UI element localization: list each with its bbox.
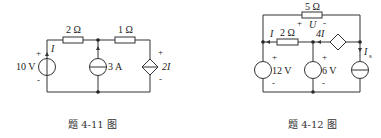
current-arrow-icon	[96, 46, 100, 50]
current-source-label: I	[363, 46, 368, 57]
plus-sign: +	[322, 52, 327, 62]
resistor-2ohm	[277, 39, 298, 45]
circuit-figures: 2 Ω 1 Ω + - 10 V I 3 A + - 2I 题 4-11 图	[0, 0, 381, 138]
node-dot	[96, 90, 100, 94]
minus-sign: -	[322, 78, 325, 88]
current-label: I	[50, 43, 55, 54]
plus-sign: +	[36, 48, 41, 58]
minus-sign: -	[323, 18, 326, 28]
minus-sign: -	[272, 78, 275, 88]
current-label: I	[269, 28, 274, 39]
node-dot	[96, 38, 100, 42]
figure-4-11: 2 Ω 1 Ω + - 10 V I 3 A + - 2I 题 4-11 图	[16, 24, 171, 130]
figure-4-12: 5 Ω + U - 2 Ω I 4I + - 12 V +	[255, 1, 373, 130]
voltage-source-12v-label: 12 V	[272, 65, 292, 76]
current-arrow-icon	[45, 52, 49, 56]
resistor-1ohm-label: 1 Ω	[118, 24, 133, 35]
dependent-source-label: 4I	[316, 28, 325, 39]
plus-sign: +	[272, 52, 277, 62]
wire	[135, 40, 150, 59]
resistor-2ohm-label: 2 Ω	[280, 27, 295, 38]
voltage-source-6v	[305, 62, 322, 79]
resistor-1ohm	[115, 37, 135, 43]
minus-sign: -	[37, 75, 40, 85]
current-arrow-icon	[266, 40, 270, 44]
voltage-source-12v	[255, 62, 272, 79]
wire	[263, 78, 360, 92]
current-source-subscript: s	[369, 52, 372, 60]
resistor-2ohm-label: 2 Ω	[66, 24, 81, 35]
minus-sign: -	[159, 74, 162, 84]
dependent-source-label: 2I	[162, 61, 171, 72]
resistor-5ohm-label: 5 Ω	[305, 1, 320, 12]
plus-sign: +	[297, 18, 302, 28]
current-arrow-icon	[317, 40, 321, 44]
figure-caption: 题 4-11 图	[68, 119, 117, 130]
resistor-2ohm	[63, 37, 83, 43]
current-source-label: 3 A	[108, 61, 123, 72]
voltage-source-label: 10 V	[16, 61, 36, 72]
resistor-5ohm	[302, 12, 322, 18]
figure-caption: 题 4-12 图	[288, 119, 337, 130]
current-arrow-icon	[358, 48, 362, 52]
plus-sign: +	[158, 47, 163, 57]
dependent-current-source	[330, 34, 346, 50]
voltage-source-6v-label: 6 V	[322, 65, 337, 76]
